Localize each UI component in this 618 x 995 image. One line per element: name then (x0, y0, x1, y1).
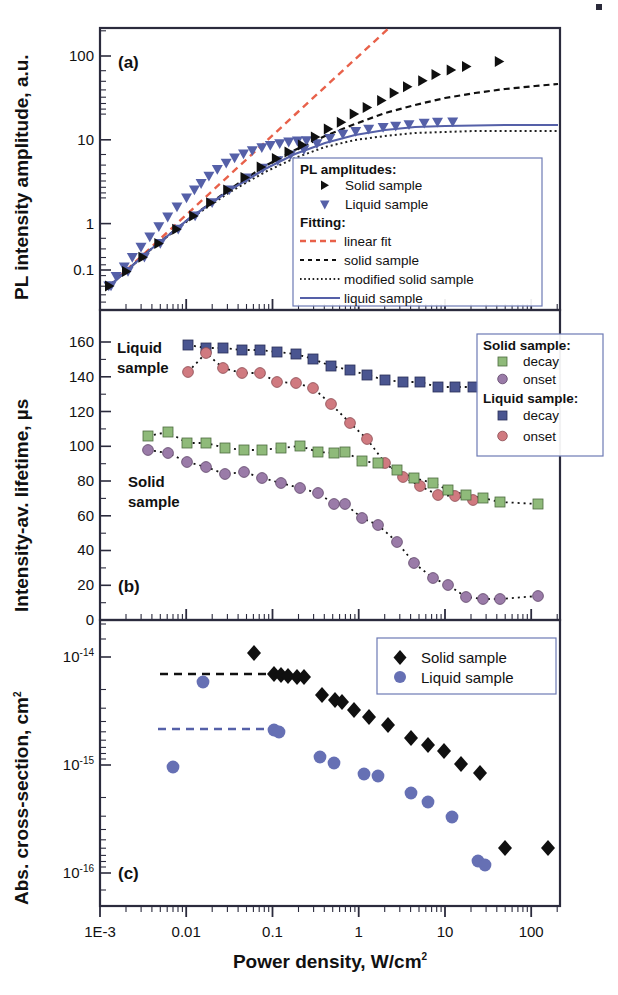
panel-b-x-ticks (100, 609, 531, 620)
figure-svg: PL intensity amplitude, a.u. (0, 0, 618, 995)
xtick-1: 1 (355, 923, 363, 940)
panel-b-y-ticks (100, 342, 111, 620)
panel-a-legend-title-amplitudes: PL amplitudes: (300, 162, 397, 177)
panel-c-ytick-1e-14: 10-14 (63, 647, 95, 665)
panel-a-legend-item-liquid-sample: Liquid sample (345, 197, 428, 212)
panel-c-x-ticks (100, 906, 531, 917)
panel-a-ytick-1: 1 (86, 215, 94, 232)
corner-mark (596, 4, 602, 10)
panel-b-ytick-100: 100 (69, 437, 94, 454)
panel-c-ytick-1e-15-exp: -15 (80, 755, 95, 766)
panel-c-ytick-1e-15-mantissa: 10 (63, 756, 80, 773)
panel-c-y-axis-label-sup: 2 (12, 691, 23, 697)
panel-b-annot-solid-line1: Solid (128, 473, 165, 490)
panel-a-legend-item-modified-solid-fit: modified solid sample (344, 272, 474, 287)
panel-c-ytick-1e-14-exp: -14 (80, 647, 95, 658)
panel-a-legend-item-solid-fit: solid sample (344, 253, 419, 268)
panel-c-ytick-1e-16: 10-16 (63, 863, 95, 881)
panel-a-ytick-0.1: 0.1 (73, 261, 94, 278)
panel-c-legend-item-liquid-sample: Liquid sample (421, 669, 514, 686)
panel-b: Intensity-av. lifetime, µs (11, 310, 603, 628)
panel-c-ytick-1e-16-mantissa: 10 (63, 864, 80, 881)
panel-c-ytick-1e-16-exp: -16 (80, 863, 95, 874)
panel-b-annot-liquid-line1: Liquid (117, 339, 162, 356)
panel-c-y-axis-label-main: Abs. cross-section, cm (11, 697, 32, 905)
panel-c: Abs. cross-section, cm2 (11, 620, 560, 917)
panel-b-legend-item-solid-onset: onset (523, 372, 556, 387)
panel-b-legend-item-liquid-onset: onset (523, 429, 556, 444)
panel-b-legend-marker-solid-decay (498, 357, 507, 366)
panel-c-liquid-points (167, 676, 492, 872)
panel-b-annot-liquid-line2: sample (117, 359, 169, 376)
x-axis-label-main: Power density, W/cm (233, 951, 422, 972)
panel-b-legend: Solid sample: decay onset Liquid sample:… (477, 334, 603, 456)
panel-b-legend-marker-solid-onset (498, 374, 508, 384)
xtick-1e-3: 1E-3 (84, 923, 116, 940)
x-axis: 1E-3 0.01 0.1 1 10 100 Power density, W/… (84, 923, 544, 972)
xtick-10: 10 (437, 923, 454, 940)
panel-b-y-axis-label: Intensity-av. lifetime, µs (11, 399, 32, 612)
panel-b-legend-title-solid: Solid sample: (483, 338, 571, 353)
panel-b-legend-title-liquid: Liquid sample: (483, 391, 578, 406)
panel-a-legend: PL amplitudes: Solid sample Liquid sampl… (293, 158, 542, 306)
panel-b-legend-marker-liquid-onset (498, 431, 508, 441)
panel-a-ytick-10: 10 (77, 131, 94, 148)
panel-b-ytick-140: 140 (69, 368, 94, 385)
xtick-100: 100 (519, 923, 544, 940)
panel-c-ytick-1e-15: 10-15 (63, 755, 95, 773)
panel-b-ytick-40: 40 (77, 541, 94, 558)
panel-c-tag: (c) (118, 864, 139, 883)
panel-b-ytick-80: 80 (77, 472, 94, 489)
panel-c-legend-item-solid-sample: Solid sample (421, 649, 507, 666)
panel-b-legend-item-solid-decay: decay (523, 354, 559, 369)
x-axis-label: Power density, W/cm2 (233, 951, 428, 972)
x-axis-label-sup: 2 (422, 951, 428, 962)
panel-a-y-axis-label: PL intensity amplitude, a.u. (11, 54, 32, 300)
panel-a-legend-item-solid-sample: Solid sample (345, 178, 422, 193)
panel-c-legend: Solid sample Liquid sample (377, 638, 556, 694)
panel-b-annot-solid-line2: sample (128, 493, 180, 510)
panel-a-tag: (a) (118, 53, 139, 72)
panel-a: PL intensity amplitude, a.u. (11, 28, 560, 310)
panel-b-ytick-20: 20 (77, 576, 94, 593)
panel-b-ytick-60: 60 (77, 507, 94, 524)
panel-b-ytick-160: 160 (69, 333, 94, 350)
panel-b-legend-item-liquid-decay: decay (523, 408, 559, 423)
panel-c-ytick-1e-14-mantissa: 10 (63, 648, 80, 665)
panel-c-y-axis-label: Abs. cross-section, cm2 (11, 691, 32, 905)
panel-b-tag: (b) (118, 577, 140, 596)
panel-a-ytick-100: 100 (69, 47, 94, 64)
panel-b-ytick-120: 120 (69, 403, 94, 420)
xtick-0.1: 0.1 (262, 923, 283, 940)
panel-a-legend-title-fitting: Fitting: (300, 215, 346, 230)
panel-a-legend-item-liquid-fit: liquid sample (344, 291, 423, 306)
xtick-0.01: 0.01 (172, 923, 201, 940)
panel-b-legend-marker-liquid-decay (498, 411, 507, 420)
panel-c-legend-marker-liquid (394, 671, 406, 683)
panel-a-legend-item-linear-fit: linear fit (344, 234, 392, 249)
figure-root: PL intensity amplitude, a.u. (0, 0, 618, 995)
panel-b-ytick-0: 0 (86, 611, 94, 628)
panel-b-solid-onset-points (143, 445, 544, 605)
